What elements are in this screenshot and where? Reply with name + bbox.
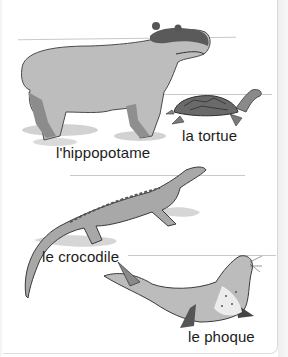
- page-gutter: [278, 0, 288, 357]
- vocabulary-card: l'hippopotame la tortue le crocodile le …: [0, 0, 278, 354]
- seal-illustration: [0, 0, 288, 340]
- label-turtle: la tortue: [182, 127, 237, 144]
- label-crocodile: le crocodile: [42, 248, 119, 265]
- label-seal: le phoque: [188, 328, 255, 345]
- label-hippopotamus: l'hippopotame: [56, 144, 150, 161]
